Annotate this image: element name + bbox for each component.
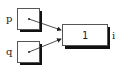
node-q: q	[6, 42, 42, 66]
label-i: i	[112, 30, 115, 41]
node-i: 1 i	[63, 25, 116, 50]
label-q: q	[6, 46, 13, 57]
node-p: p	[6, 9, 42, 33]
label-p: p	[6, 13, 12, 24]
value-i: 1	[82, 30, 88, 41]
pointer-diagram: p q 1 i	[0, 0, 121, 71]
